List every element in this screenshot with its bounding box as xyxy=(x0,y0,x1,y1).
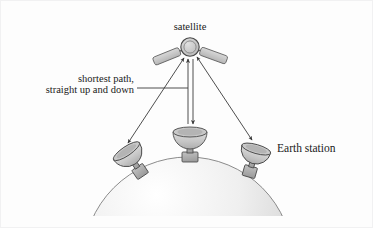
station-dish-inner-center xyxy=(178,129,203,136)
shortest-path-label-line1: shortest path, xyxy=(78,73,134,84)
shortest-path-label-line2: straight up and down xyxy=(46,84,135,95)
station-base-center xyxy=(182,152,198,162)
diagram-canvas: satellite shortest path, straight up and… xyxy=(0,0,373,228)
satellite-diagram-figure: satellite shortest path, straight up and… xyxy=(0,0,373,228)
earth-station-label: Earth station xyxy=(277,142,336,154)
satellite-label: satellite xyxy=(174,21,207,32)
